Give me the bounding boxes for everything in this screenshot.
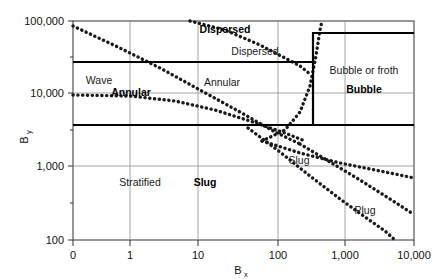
x-tick-label-10: 10 (192, 249, 204, 261)
region-label-annular: Annular (204, 76, 241, 88)
horizontal-gridlines (73, 93, 414, 166)
region-label-dispersed: Dispersed (231, 45, 278, 57)
y-axis-title: B y (18, 130, 33, 144)
x-axis-title-subscript: x (244, 270, 248, 279)
x-tick-label-100: 100 (269, 249, 287, 261)
region-label-dispersed-bold: Dispersed (200, 23, 251, 35)
x-tick-label-0: 0 (70, 249, 76, 261)
y-tick-label-1000: 1,000 (36, 160, 64, 172)
region-label-wave: Wave (86, 74, 113, 86)
y-tick-label-100000: 100,000 (24, 15, 64, 27)
wave-annular-lower-curve (73, 95, 305, 141)
y-tick-label-10000: 10,000 (30, 87, 64, 99)
lower-descending-curve-a (248, 128, 395, 240)
region-label-bubble-or-froth: Bubble or froth (330, 64, 399, 76)
region-label-annular-bold: Annular (111, 86, 151, 98)
x-tick-labels: 0 1 10 100 1,000 10,000 (70, 249, 431, 261)
x-axis-title-base: B (234, 264, 241, 276)
region-label-stratified: Stratified (119, 176, 161, 188)
x-tick-label-1: 1 (127, 249, 133, 261)
x-axis-ticks (73, 240, 414, 246)
chart-figure: 100,000 10,000 1,000 100 0 1 10 100 1,00… (0, 0, 444, 279)
region-label-bubble: Bubble (346, 83, 382, 95)
x-tick-label-10000: 10,000 (397, 249, 431, 261)
region-label-slug: Slug (288, 154, 309, 166)
region-label-plug: Plug (354, 204, 375, 216)
y-tick-label-100: 100 (46, 234, 64, 246)
x-tick-label-1000: 1,000 (331, 249, 359, 261)
y-axis-ticks (68, 21, 73, 240)
flow-regime-map-chart: 100,000 10,000 1,000 100 0 1 10 100 1,00… (0, 0, 444, 279)
y-axis-title-base: B (18, 136, 30, 143)
region-label-slug-bold: Slug (194, 176, 217, 188)
slug-plug-divider (262, 141, 414, 178)
y-axis-title-subscript: y (24, 130, 33, 134)
x-axis-title: B x (234, 264, 248, 279)
